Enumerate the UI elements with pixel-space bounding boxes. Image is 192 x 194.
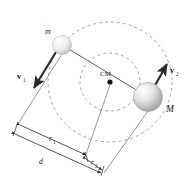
velocity-2-symbol: v [170,65,175,75]
projection-center-of-mass [85,85,110,157]
center-of-mass-dot [107,79,112,84]
r1-symbol: r [49,134,52,143]
velocity-vector-1 [34,52,56,88]
projection-large-mass [104,111,148,173]
projection-lines [18,54,148,173]
large-mass-label: M [165,104,175,114]
velocity-1-symbol: v [17,71,22,81]
dimension-d [15,134,101,173]
dimension-r2-bar [86,159,102,170]
r2-symbol: r [91,158,94,167]
velocity-vector-2-label: v 2 [170,65,179,77]
tick-right-outer [101,166,104,176]
r1-subscript: 1 [53,139,56,145]
velocity-2-subscript: 2 [176,71,179,77]
small-mass-label: m [45,27,51,36]
large-mass-body [134,83,163,112]
dimension-d-label: d [39,157,43,166]
dimension-r1-label: r 1 [49,134,56,145]
small-mass-body [53,36,72,55]
two-body-orbit-diagram: m M CM v 1 v 2 r 1 d r 2 [0,0,192,194]
dimension-r2 [86,159,102,170]
velocity-1-subscript: 1 [23,77,26,83]
projection-small-mass [18,54,62,124]
dimension-d-bar [15,134,101,173]
figure-container: m M CM v 1 v 2 r 1 d r 2 [0,0,192,194]
r2-subscript: 2 [95,163,98,169]
velocity-vector-1-shaft [34,52,56,88]
velocity-vector-1-label: v 1 [17,71,26,83]
dimension-r2-label: r 2 [91,158,98,169]
center-of-mass-label: CM [100,70,112,78]
